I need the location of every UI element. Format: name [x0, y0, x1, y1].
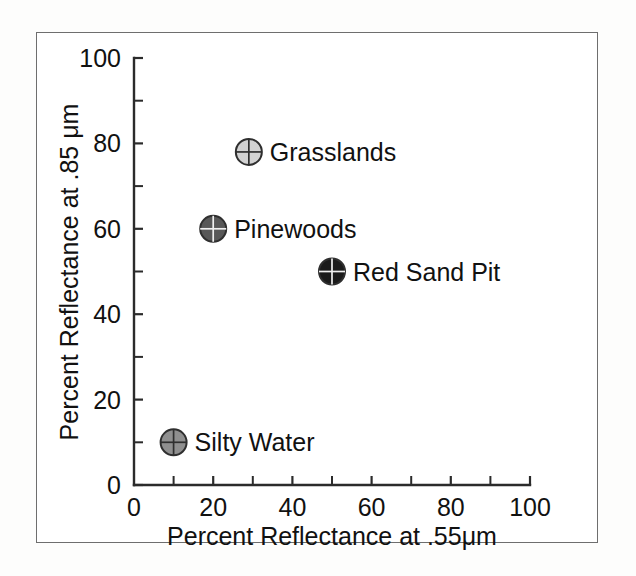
y-tick-label-80: 80 [93, 129, 121, 157]
x-tick-label-100: 100 [509, 493, 551, 521]
x-axis-title: Percent Reflectance at .55μm [167, 522, 497, 550]
x-tick-label-0: 0 [127, 493, 141, 521]
data-point-red-sand-pit[interactable]: Red Sand Pit [319, 258, 500, 286]
x-axis-ticks [174, 476, 530, 485]
data-point-grasslands[interactable]: Grasslands [236, 138, 396, 166]
data-point-label: Red Sand Pit [353, 258, 500, 286]
figure-page: 020406080100 020406080100 Percent Reflec… [0, 0, 636, 576]
y-axis-ticks [134, 58, 143, 485]
data-point-label: Silty Water [195, 428, 315, 456]
y-tick-label-100: 100 [79, 44, 121, 72]
y-tick-label-60: 60 [93, 215, 121, 243]
data-point-pinewoods[interactable]: Pinewoods [200, 215, 356, 243]
y-axis-title: Percent Reflectance at .85 μm [55, 104, 83, 441]
y-tick-label-40: 40 [93, 300, 121, 328]
x-tick-label-40: 40 [278, 493, 306, 521]
data-point-label: Grasslands [270, 138, 396, 166]
x-tick-label-60: 60 [358, 493, 386, 521]
y-tick-label-20: 20 [93, 386, 121, 414]
y-axis-tick-labels: 020406080100 [79, 44, 121, 499]
data-point-label: Pinewoods [234, 215, 356, 243]
y-tick-label-0: 0 [107, 471, 121, 499]
data-points: GrasslandsPinewoodsRed Sand PitSilty Wat… [161, 138, 501, 456]
x-tick-label-80: 80 [437, 493, 465, 521]
x-axis-tick-labels: 020406080100 [127, 493, 551, 521]
scatter-plot: 020406080100 020406080100 Percent Reflec… [0, 0, 636, 576]
x-tick-label-20: 20 [199, 493, 227, 521]
data-point-silty-water[interactable]: Silty Water [161, 428, 315, 456]
